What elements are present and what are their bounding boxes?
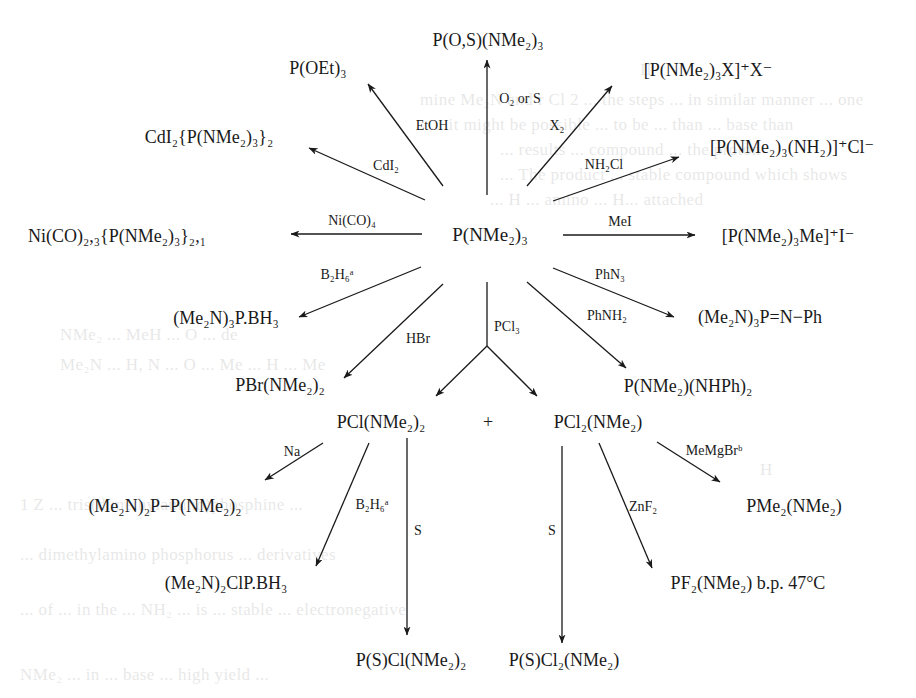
compound-pcl: PCl(NMe₂)₂ bbox=[337, 412, 426, 432]
reagent-phnh2: PhNH₂ bbox=[587, 308, 627, 324]
arrow-cdi2 bbox=[309, 148, 425, 200]
reagent-mei: MeI bbox=[608, 214, 631, 230]
compound-ps-cl2: P(S)Cl₂(NMe₂) bbox=[509, 650, 620, 670]
reagent-memgbr: MeMgBrᵇ bbox=[686, 443, 742, 459]
arrow-pcl3-right bbox=[487, 346, 537, 396]
compound-p-oet: P(OEt)₃ bbox=[289, 58, 346, 78]
reagent-phn3: PhN₃ bbox=[595, 267, 625, 283]
compound-ps-cl: P(S)Cl(NMe₂)₂ bbox=[356, 650, 467, 670]
arrow-phnh2 bbox=[527, 282, 626, 368]
reagent-nh2cl: NH₂Cl bbox=[585, 157, 623, 173]
compound-central: P(NMe₂)₃ bbox=[452, 225, 528, 245]
reagent-hbr: HBr bbox=[406, 331, 430, 347]
arrow-b2h6-1 bbox=[299, 267, 421, 317]
reagent-pcl3: PCl₃ bbox=[494, 319, 520, 335]
compound-pbr: PBr(NMe₂)₂ bbox=[235, 375, 325, 395]
reagent-s-2: S bbox=[548, 523, 556, 539]
reagent-znf2: ZnF₂ bbox=[629, 499, 657, 515]
compound-pcl2: PCl₂(NMe₂) bbox=[554, 412, 643, 432]
reagent-etoh: EtOH bbox=[416, 118, 449, 134]
reaction-scheme: P(NMe₂)₃ P(O,S)(NMe₂)₃ P(OEt)₃ [P(NMe₂)₃… bbox=[0, 0, 916, 698]
arrow-layer bbox=[0, 0, 916, 698]
reagent-b2h6-2: B₂H₆ᵃ bbox=[355, 497, 388, 513]
compound-phosphinimine: (Me₂N)₃P=N−Ph bbox=[698, 307, 822, 327]
compound-diphosphine: (Me₂N)₂P−P(NMe₂)₂ bbox=[88, 496, 241, 516]
compound-anilino: P(NMe₂)(NHPh)₂ bbox=[624, 376, 753, 396]
compound-p-os: P(O,S)(NMe₂)₃ bbox=[432, 30, 543, 50]
compound-phosphonium-x: [P(NMe₂)₃X]⁺X⁻ bbox=[644, 60, 773, 80]
compound-borane-adduct: (Me₂N)₃P.BH₃ bbox=[173, 308, 278, 328]
compound-pme2: PMe₂(NMe₂) bbox=[746, 496, 842, 516]
reagent-b2h6-1: B₂H₆ᵃ bbox=[320, 267, 353, 283]
compound-methyl-phosphonium: [P(NMe₂)₃Me]⁺I⁻ bbox=[722, 226, 855, 246]
reagent-x2: X₂ bbox=[550, 118, 565, 134]
arrow-pcl3-left bbox=[436, 346, 487, 396]
reagent-s-1: S bbox=[414, 523, 422, 539]
reagent-na: Na bbox=[284, 444, 300, 460]
plus-sign: + bbox=[483, 412, 493, 432]
compound-chloro-borane: (Me₂N)₂ClP.BH₃ bbox=[165, 573, 287, 593]
compound-amino-phosphonium: [P(NMe₂)₃(NH₂)]⁺Cl⁻ bbox=[710, 137, 874, 157]
reagent-nico4: Ni(CO)₄ bbox=[328, 213, 376, 229]
compound-pf2: PF₂(NMe₂) b.p. 47°C bbox=[671, 573, 826, 593]
reagent-cdi2: CdI₂ bbox=[373, 158, 399, 174]
reagent-o2-or-s: O₂ or S bbox=[499, 91, 540, 107]
compound-cdi2-complex: CdI₂{P(NMe₂)₃}₂ bbox=[145, 127, 273, 147]
compound-ni-complex: Ni(CO)₂,₃{P(NMe₂)₃}₂,₁ bbox=[28, 226, 206, 246]
